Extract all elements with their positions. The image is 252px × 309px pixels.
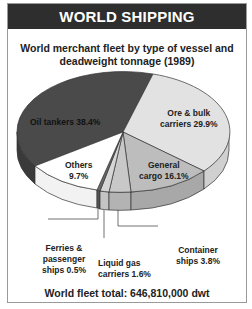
leader-ferries bbox=[48, 209, 98, 219]
label-ore: Ore & bulk carriers 29.9% bbox=[160, 108, 218, 130]
label-ferries: Ferries & passenger ships 0.5% bbox=[42, 243, 86, 276]
label-others: Others 9.7% bbox=[65, 160, 92, 182]
lgas-side bbox=[100, 191, 109, 210]
label-lgas: Liquid gas carriers 1.6% bbox=[98, 258, 151, 280]
label-container-line1: Container bbox=[176, 245, 220, 256]
label-ferries-line3: ships 0.5% bbox=[42, 265, 86, 276]
fleet-total: World fleet total: 646,810,000 dwt bbox=[8, 287, 246, 299]
label-general: General cargo 16.1% bbox=[139, 160, 189, 182]
label-general-line2: cargo 16.1% bbox=[139, 171, 189, 182]
chart-frame: WORLD SHIPPING World merchant fleet by t… bbox=[7, 3, 247, 303]
label-ferries-line1: Ferries & bbox=[42, 243, 86, 254]
label-lgas-line1: Liquid gas bbox=[98, 258, 151, 269]
label-container: Container ships 3.8% bbox=[176, 245, 220, 267]
label-container-line2: ships 3.8% bbox=[176, 256, 220, 267]
label-ore-line1: Ore & bulk bbox=[160, 108, 218, 119]
label-general-line1: General bbox=[139, 160, 189, 171]
label-oil: Oil tankers 38.4% bbox=[30, 117, 100, 128]
container-side bbox=[109, 192, 131, 210]
ferries-side bbox=[97, 190, 100, 209]
label-lgas-line2: carriers 1.6% bbox=[98, 269, 151, 280]
label-ore-line2: carriers 29.9% bbox=[160, 119, 218, 130]
label-others-line1: Others bbox=[65, 160, 92, 171]
label-ferries-line2: passenger bbox=[42, 254, 86, 265]
leader-container bbox=[118, 210, 158, 226]
label-others-line2: 9.7% bbox=[65, 171, 92, 182]
